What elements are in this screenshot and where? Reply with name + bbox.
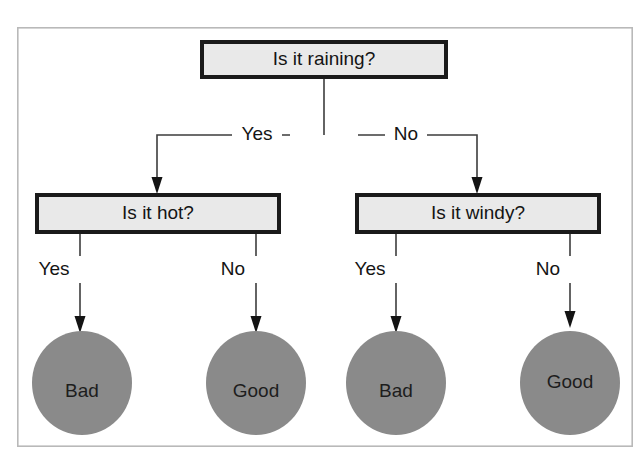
decision-label: Is it windy?	[431, 202, 525, 223]
edge-label-windy-yes: Yes	[355, 258, 386, 279]
arrow-head-hot-yes	[75, 316, 86, 333]
arrow-head-root-yes	[152, 177, 163, 194]
edge-label-hot-yes: Yes	[39, 258, 70, 279]
leaf-label: Good	[547, 371, 593, 392]
edge-hot-yes-line	[75, 234, 86, 333]
leaf-node-good-2[interactable]: Good	[520, 331, 620, 435]
arrow-head-windy-no	[565, 311, 576, 328]
edge-windy-yes-line	[391, 234, 402, 333]
edge-label-root-yes: Yes	[232, 122, 282, 147]
leaf-label: Good	[233, 380, 279, 401]
decision-node-is-it-hot[interactable]: Is it hot?	[37, 195, 279, 232]
edge-label-windy-no: No	[536, 258, 560, 279]
leaf-node-good-1[interactable]: Good	[206, 331, 306, 435]
arrow-head-root-no	[472, 177, 483, 194]
leaf-label: Bad	[65, 380, 99, 401]
decision-label: Is it raining?	[273, 48, 375, 69]
decision-node-is-it-windy[interactable]: Is it windy?	[357, 195, 599, 232]
diagram-canvas: Bad Good Bad Good Is it raining? Is it h…	[0, 0, 643, 466]
edge-label-text: No	[536, 258, 560, 279]
decision-label: Is it hot?	[122, 202, 194, 223]
decision-tree-diagram: Bad Good Bad Good Is it raining? Is it h…	[0, 0, 643, 466]
arrow-head-windy-yes	[391, 316, 402, 333]
decision-node-is-it-raining[interactable]: Is it raining?	[202, 42, 446, 77]
arrow-head-hot-no	[251, 316, 262, 333]
edge-label-text: Yes	[355, 258, 386, 279]
edge-label-hot-no: No	[221, 258, 245, 279]
leaf-label: Bad	[379, 380, 413, 401]
edge-label-text: Yes	[242, 123, 273, 144]
edge-label-text: No	[221, 258, 245, 279]
edge-label-text: Yes	[39, 258, 70, 279]
edge-windy-no-line	[565, 234, 576, 328]
leaf-node-bad-2[interactable]: Bad	[346, 331, 446, 435]
edge-label-root-no: No	[385, 122, 427, 147]
leaf-node-bad-1[interactable]: Bad	[32, 331, 132, 435]
edge-label-text: No	[394, 123, 418, 144]
edge-hot-no-line	[251, 234, 262, 333]
